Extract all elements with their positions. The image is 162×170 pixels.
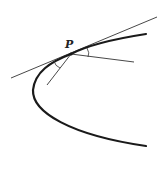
point-p-marker	[69, 52, 72, 55]
diagram-canvas: P	[0, 0, 162, 170]
point-p-label: P	[64, 38, 74, 51]
parabola-curve	[33, 34, 146, 146]
parabola-reflection-diagram: P	[0, 0, 162, 170]
line-to-right	[71, 54, 134, 62]
